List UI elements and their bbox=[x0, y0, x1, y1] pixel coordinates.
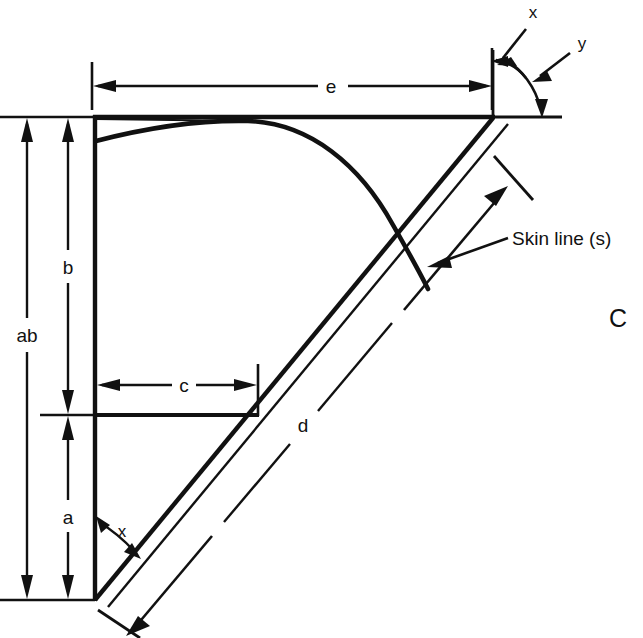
dimension-b-arrowhead-bottom bbox=[62, 390, 74, 414]
figure-letter-label: C bbox=[609, 304, 627, 332]
diagram-canvas: e c ab b bbox=[0, 0, 643, 638]
skin-line-curve bbox=[96, 121, 428, 289]
dimension-d-label: d bbox=[298, 415, 309, 436]
angle-x-top-label: x bbox=[529, 3, 538, 22]
dimension-a-arrowhead-bottom bbox=[62, 575, 74, 599]
angle-y-top-leader-arrowhead bbox=[532, 71, 552, 82]
angle-y-top: y bbox=[502, 34, 587, 118]
dimension-d-arrowhead-bottom bbox=[126, 616, 150, 636]
dimension-e: e bbox=[93, 76, 492, 97]
angle-x-bottom-arrowhead-left bbox=[96, 516, 110, 533]
angle-y-top-label: y bbox=[578, 34, 587, 53]
technical-diagram-figure: e c ab b bbox=[0, 0, 643, 638]
dimension-ab-label: ab bbox=[16, 325, 37, 346]
dimension-e-arrowhead-right bbox=[469, 80, 492, 92]
dimension-ab-arrowhead-top bbox=[21, 118, 33, 142]
dimension-d-leader-bottom bbox=[136, 536, 212, 626]
angle-x-bottom: x bbox=[96, 516, 141, 559]
skin-line-leader-arrowhead bbox=[427, 256, 452, 268]
dimension-d: d bbox=[98, 156, 533, 638]
dimension-d-line-upper bbox=[318, 323, 392, 411]
dimension-c: c bbox=[97, 375, 257, 396]
dimension-b-arrowhead-top bbox=[62, 118, 74, 142]
dimension-e-arrowhead-left bbox=[93, 80, 116, 92]
angle-x-top-leader bbox=[503, 29, 526, 58]
dimension-c-arrowhead-left bbox=[97, 379, 120, 391]
angle-y-top-leader bbox=[540, 53, 570, 76]
dimension-b-label: b bbox=[63, 257, 74, 278]
skin-line-label: Skin line (s) bbox=[512, 228, 611, 249]
angle-y-top-arrowhead bbox=[535, 99, 548, 118]
dimension-c-label: c bbox=[179, 375, 189, 396]
dimension-a-label: a bbox=[63, 507, 74, 528]
dimension-b: b bbox=[62, 118, 74, 414]
dimension-d-arrowhead-top bbox=[484, 186, 508, 206]
diagonal-member-outer-edge bbox=[95, 118, 493, 600]
dimension-a-arrowhead-top bbox=[62, 416, 74, 440]
angle-x-bottom-label: x bbox=[118, 522, 127, 541]
dimension-c-arrowhead-right bbox=[234, 379, 257, 391]
dimension-a: a bbox=[62, 416, 74, 599]
dimension-ab: ab bbox=[16, 118, 37, 599]
dimension-ab-arrowhead-bottom bbox=[21, 575, 33, 599]
diagonal-member-inner-edge bbox=[108, 124, 508, 607]
dimension-e-label: e bbox=[326, 76, 337, 97]
dimension-d-leader-top bbox=[404, 196, 500, 310]
